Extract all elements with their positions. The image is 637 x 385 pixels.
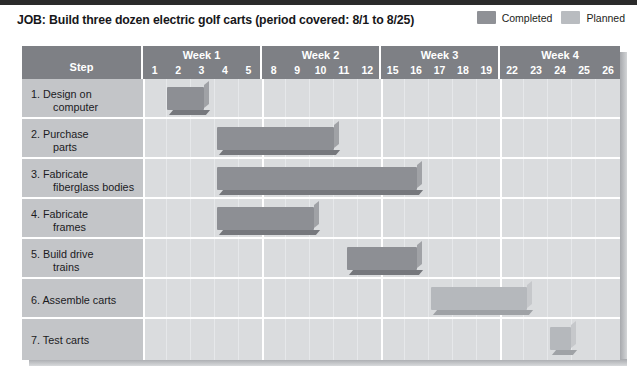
task-label-6: 6. Assemble carts [31,294,143,307]
chart-header-row: Step Week 1 1 2 3 4 5 Week 2 8 9 10 11 1… [22,46,620,79]
gantt-bar-task-6[interactable] [431,287,527,310]
bar-face [550,327,571,350]
task-name-cont: computer [42,101,98,113]
task-label-5: 5. Build drive trains [31,248,143,274]
week-1-label: Week 1 [143,49,260,61]
task-number: 2. [31,128,40,140]
day-cell: 17 [428,64,451,76]
chart-shadow-bottom [29,359,627,366]
header-week-3: Week 3 15 16 17 18 19 [381,46,500,79]
day-cell: 10 [309,64,332,76]
row-separator [22,197,620,199]
day-cell: 5 [237,64,260,76]
day-cell: 12 [356,64,379,76]
row-separator [22,117,620,119]
bar-face [217,167,417,190]
bar-side-right [417,241,422,268]
header-week-4: Week 4 22 23 24 25 26 [500,46,620,79]
legend-swatch-completed [477,11,496,24]
week-4-label: Week 4 [500,49,620,61]
row-separator [22,317,620,319]
day-cell: 1 [143,64,166,76]
legend-item-planned: Planned [561,11,625,24]
gantt-bar-task-1[interactable] [167,87,204,110]
task-name: Fabricate [43,168,88,180]
bar-face [431,287,527,310]
legend-swatch-planned [561,11,580,24]
week-2-label: Week 2 [262,49,379,61]
task-name-cont: trains [42,261,79,273]
bar-side-right [527,281,532,308]
task-label-7: 7. Test carts [31,334,143,347]
day-cell: 23 [524,64,548,76]
week-1-days: 1 2 3 4 5 [143,64,260,76]
bar-side-right [571,321,576,348]
task-name: Purchase [43,128,89,140]
header-week-2: Week 2 8 9 10 11 12 [262,46,381,79]
bar-side-right [417,161,422,188]
legend-item-completed: Completed [477,11,553,24]
page-title: JOB: Build three dozen electric golf car… [17,13,447,27]
gantt-bar-task-7[interactable] [550,327,571,350]
bar-side-right [334,121,339,148]
task-name-cont: fiberglass bodies [42,181,134,193]
day-cell: 11 [332,64,355,76]
day-cell: 26 [596,64,620,76]
task-name: Design on [43,88,92,100]
chart-grid: 1. Design on computer 2. Purchase parts … [22,79,620,360]
week-4-days: 22 23 24 25 26 [500,64,620,76]
gantt-bar-task-5[interactable] [347,247,417,270]
task-name-cont: parts [42,141,77,153]
day-cell: 8 [262,64,285,76]
gantt-bar-task-4[interactable] [217,207,314,230]
task-name: Fabricate [43,208,88,220]
bar-side-right [314,201,319,228]
bar-side-bottom [552,350,577,355]
bar-side-bottom [169,110,210,115]
week-3-label: Week 3 [381,49,498,61]
header-week-1: Week 1 1 2 3 4 5 [143,46,262,79]
bar-side-right [204,81,209,108]
bar-face [167,87,204,110]
row-separator [22,157,620,159]
legend-label-planned: Planned [586,12,625,24]
gantt-bar-task-3[interactable] [217,167,417,190]
row-separator [22,277,620,279]
task-number: 4. [31,208,40,220]
bar-side-bottom [219,150,340,155]
legend-label-completed: Completed [502,12,553,24]
task-name: Build drive [43,248,93,260]
task-label-4: 4. Fabricate frames [31,208,143,234]
gantt-chart: Step Week 1 1 2 3 4 5 Week 2 8 9 10 11 1… [22,46,620,360]
legend: Completed Planned [477,11,625,24]
day-cell: 4 [213,64,236,76]
task-name: Test carts [43,334,89,346]
task-number: 5. [31,248,40,260]
task-label-3: 3. Fabricate fiberglass bodies [31,168,143,194]
day-cell: 22 [500,64,524,76]
gantt-bar-task-2[interactable] [217,127,334,150]
bar-side-bottom [349,270,423,275]
day-cell: 24 [548,64,572,76]
top-edge-bar [0,0,637,5]
task-label-1: 1. Design on computer [31,88,143,114]
day-cell: 2 [166,64,189,76]
day-cell: 18 [451,64,474,76]
day-cell: 16 [404,64,427,76]
day-cell: 9 [285,64,308,76]
bar-side-bottom [219,190,423,195]
row-separator [22,237,620,239]
bar-side-bottom [219,230,320,235]
bar-face [217,127,334,150]
bar-face [347,247,417,270]
task-name-cont: frames [42,221,86,233]
task-number: 7. [31,334,40,346]
task-name: Assemble carts [42,294,116,306]
week-3-days: 15 16 17 18 19 [381,64,498,76]
task-label-2: 2. Purchase parts [31,128,143,154]
bar-side-bottom [433,310,533,315]
day-cell: 15 [381,64,404,76]
bar-face [217,207,314,230]
header-step-label: Step [70,61,94,73]
day-cell: 19 [475,64,498,76]
